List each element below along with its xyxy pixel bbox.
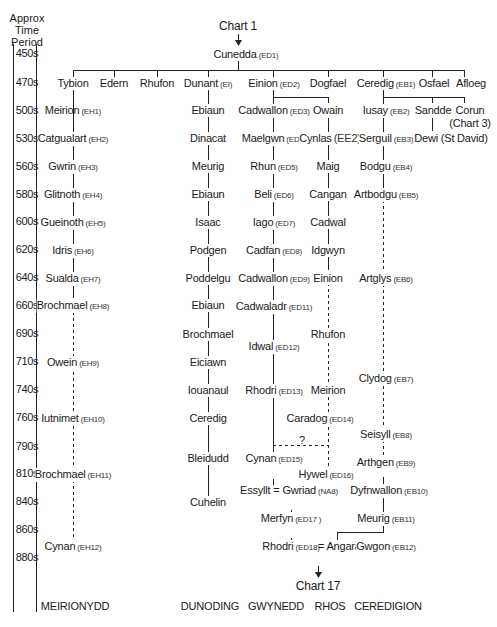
person-code: (ED7) bbox=[275, 219, 295, 228]
person-name: Rhun bbox=[250, 160, 276, 172]
person-cynan: Cynan(EH12) bbox=[45, 540, 102, 554]
person-name: Cunedda bbox=[213, 48, 256, 60]
person-code: (EB1) bbox=[396, 80, 415, 89]
person-name: Afloeg bbox=[456, 77, 486, 89]
person-code: (EB3) bbox=[394, 135, 413, 144]
person-name: Meirion bbox=[45, 104, 80, 116]
person-name: Clydog bbox=[359, 372, 392, 384]
person-rhufon: Rhufon bbox=[311, 328, 345, 341]
person-code: (EB7) bbox=[394, 375, 413, 384]
person-code: (ED13) bbox=[279, 387, 303, 396]
person-name: Idwal bbox=[249, 340, 274, 352]
person-code: (EB10) bbox=[404, 487, 428, 496]
person-einion: Einion bbox=[313, 272, 342, 285]
person-iutnimet: Iutnimet(EH10) bbox=[41, 412, 105, 426]
person-cynlas: Cynlas(EE2) bbox=[299, 132, 361, 145]
person-name: Dyfnwallon bbox=[350, 484, 402, 496]
person-code: (ED6) bbox=[274, 191, 294, 200]
person-name: Iusay bbox=[363, 104, 388, 116]
region-label-meirionydd: MEIRIONYDD bbox=[41, 600, 109, 612]
person-name: Idris bbox=[52, 244, 72, 256]
person-cadwallon: Cadwallon(ED9) bbox=[238, 272, 309, 286]
person-code: (EH12) bbox=[77, 543, 101, 552]
person-cadwaladr: Cadwaladr(ED11) bbox=[236, 300, 312, 314]
person-cangan: Cangan bbox=[309, 188, 346, 201]
person-caradog: Caradog(ED14) bbox=[287, 412, 354, 426]
person-cuhelin: Cuhelin bbox=[190, 496, 226, 509]
person-arthgen: Arthgen(EB9) bbox=[357, 456, 416, 470]
person-code: (EB12) bbox=[392, 543, 416, 552]
person-name: Serguil bbox=[359, 132, 392, 144]
person-name: Corun bbox=[456, 104, 485, 116]
person-code: (EH4) bbox=[82, 191, 102, 200]
person-iouanaul: Iouanaul bbox=[188, 384, 229, 397]
person-dinacat: Dinacat bbox=[190, 132, 226, 145]
person-name: Owain bbox=[313, 104, 343, 116]
person-code: (EH9) bbox=[79, 359, 99, 368]
person-maelgwn: Maelgwn(ED4) bbox=[242, 132, 307, 146]
person-poddelgu: Poddelgu bbox=[186, 272, 231, 285]
person-code: (EB9) bbox=[396, 459, 415, 468]
person-code: (EB2) bbox=[390, 107, 409, 116]
person-code: (ED17 ) bbox=[295, 515, 321, 524]
person-name: Gueinoth bbox=[41, 216, 84, 228]
person-ebiaun: Ebiaun bbox=[191, 188, 224, 201]
person-name: Ebiaun bbox=[191, 188, 224, 200]
person-name: Rhufon bbox=[311, 328, 345, 340]
person-code: (ED18) bbox=[296, 543, 320, 552]
chart-1-reference[interactable]: Chart 1 bbox=[219, 20, 257, 33]
person-name: Cangan bbox=[309, 188, 346, 200]
person-name: Meirion bbox=[311, 384, 346, 396]
person-name: Edern bbox=[100, 77, 128, 89]
chart-3-reference[interactable]: (Chart 3) bbox=[449, 117, 491, 130]
person-code: (EH10) bbox=[81, 415, 105, 424]
person-name: Tybion bbox=[57, 77, 88, 89]
chart-17-reference[interactable]: Chart 17 bbox=[296, 580, 340, 593]
person-name: Ebiaun bbox=[191, 299, 224, 311]
person-name: Iouanaul bbox=[188, 384, 229, 396]
person-serguil: Serguil(EB3) bbox=[359, 132, 413, 146]
person-owein: Owein(EH9) bbox=[47, 356, 99, 370]
person-name: Owein bbox=[47, 356, 77, 368]
person-name: Artglys bbox=[359, 272, 391, 284]
person-name: Maelgwn bbox=[242, 132, 285, 144]
person-brochmael: Brochmael bbox=[183, 328, 234, 341]
person-cadfan: Cadfan(ED8) bbox=[246, 244, 302, 258]
person-name: Caradog bbox=[287, 412, 328, 424]
person-name: Iutnimet bbox=[41, 412, 79, 424]
person-ceredig: Ceredig(EB1) bbox=[357, 77, 416, 91]
person-beli: Beli(ED6) bbox=[254, 188, 293, 202]
person-code: (ED3) bbox=[290, 107, 310, 116]
person-name: Gwgon bbox=[356, 540, 390, 552]
person-owain: Owain bbox=[313, 104, 343, 117]
person-name: Beli bbox=[254, 188, 272, 200]
region-label-rhos: RHOS bbox=[315, 600, 346, 612]
person-code: (EE2) bbox=[334, 132, 361, 144]
person-sandde: Sandde bbox=[415, 104, 452, 117]
person-name: Ebiaun bbox=[191, 104, 224, 116]
person-meurig: Meurig bbox=[192, 160, 224, 173]
person-name: (Chart 3) bbox=[449, 117, 491, 129]
person-gwgon: Gwgon(EB12) bbox=[356, 540, 416, 554]
person-code: (NA8) bbox=[318, 487, 338, 496]
person-catgualart: Catgualart(EH2) bbox=[38, 132, 109, 146]
person-bleidudd: Bleidudd bbox=[187, 452, 228, 465]
person-code: (ED14) bbox=[329, 415, 353, 424]
person-hywel: Hywel(ED16) bbox=[298, 468, 353, 482]
person-brochmael: Brochmael(EH8) bbox=[37, 299, 110, 313]
person-name: Cynan bbox=[246, 452, 277, 464]
person-name: Brochmael bbox=[183, 328, 234, 340]
person-name: Arthgen bbox=[357, 456, 394, 468]
person-name: Cuhelin bbox=[190, 496, 226, 508]
person-isaac: Isaac bbox=[195, 216, 220, 229]
person-name: Cynlas bbox=[299, 132, 331, 144]
person-ebiaun: Ebiaun bbox=[191, 299, 224, 312]
person-merfyn: Merfyn(ED17 ) bbox=[261, 512, 322, 526]
person-name: Meurig bbox=[192, 160, 224, 172]
person-name: Brochmael bbox=[37, 299, 88, 311]
person-rhun: Rhun(ED5) bbox=[250, 160, 297, 174]
person-name: Rhodri bbox=[245, 384, 276, 396]
person-code: (ED8) bbox=[282, 247, 302, 256]
person-name: Sualda bbox=[46, 272, 79, 284]
person-name: Einion bbox=[248, 77, 277, 89]
